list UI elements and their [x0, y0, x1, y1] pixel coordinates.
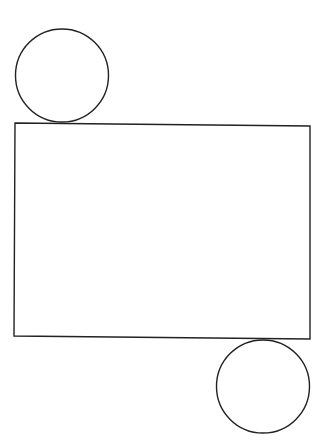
- cylinder-net-diagram: [0, 0, 322, 442]
- background: [0, 0, 322, 442]
